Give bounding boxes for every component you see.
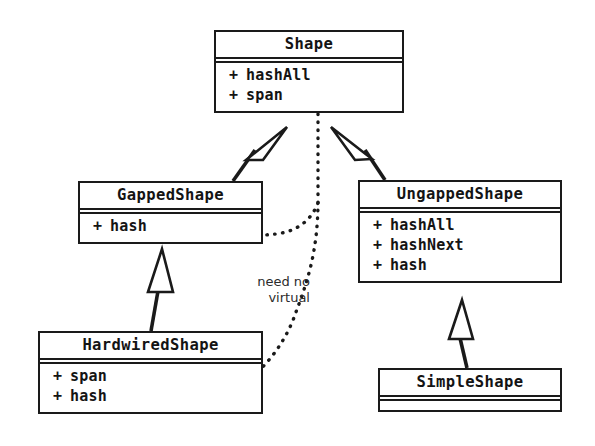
member-row: +hash [53,387,255,407]
class-name-gappedshape: GappedShape [80,183,261,208]
uml-class-simpleshape[interactable]: SimpleShape [378,368,562,412]
member-name: hashNext [390,236,464,254]
generalization-hardwiredshape-to-gappedshape [148,249,173,331]
member-name: hash [110,217,147,235]
visibility-marker: + [229,66,246,86]
hollow-triangle-arrowhead-icon [246,127,287,160]
uml-class-hardwiredshape[interactable]: HardwiredShape +span +hash [38,331,263,414]
member-row: +hashNext [373,236,554,256]
member-row: +span [229,86,396,106]
members-compartment: +hash [80,214,261,242]
visibility-marker: + [373,236,390,256]
generalization-gappedshape-to-shape [233,127,287,181]
visibility-marker: + [373,216,390,236]
member-name: hash [390,256,427,274]
generalization-line [151,291,158,331]
member-name: span [70,367,107,385]
class-name-shape: Shape [216,32,402,57]
hollow-triangle-arrowhead-icon [449,300,473,339]
annotation-need-no-virtual: need no virtual [232,274,310,306]
member-row: +hash [373,256,554,276]
members-compartment: +span +hash [40,364,261,412]
uml-class-ungappedshape[interactable]: UngappedShape +hashAll +hashNext +hash [358,180,562,283]
generalization-ungappedshape-to-shape [331,127,385,180]
visibility-marker: + [93,217,110,237]
annotation-line-1: need no [232,274,310,290]
class-name-hardwiredshape: HardwiredShape [40,333,261,358]
member-row: +hashAll [373,216,554,236]
class-name-simpleshape: SimpleShape [380,370,560,395]
hollow-triangle-arrowhead-icon [331,127,372,160]
visibility-marker: + [53,387,70,407]
generalization-line [460,338,467,368]
uml-class-gappedshape[interactable]: GappedShape +hash [78,181,263,244]
member-row: +hashAll [229,66,396,86]
visibility-marker: + [229,86,246,106]
members-compartment: +hashAll +span [216,63,402,111]
member-name: hash [70,387,107,405]
uml-class-shape[interactable]: Shape +hashAll +span [214,30,404,113]
uml-class-diagram: Shape +hashAll +span GappedShape +hash U… [0,0,595,446]
generalization-simpleshape-to-ungappedshape [449,300,473,368]
member-name: hashAll [246,66,311,84]
member-row: +span [53,367,255,387]
members-compartment-empty [380,401,560,410]
member-row: +hash [93,217,255,237]
visibility-marker: + [373,256,390,276]
member-name: hashAll [390,216,455,234]
hollow-triangle-arrowhead-icon [148,249,173,292]
class-name-ungappedshape: UngappedShape [360,182,560,207]
member-name: span [246,86,283,104]
visibility-marker: + [53,367,70,387]
annotation-line-2: virtual [232,290,310,306]
members-compartment: +hashAll +hashNext +hash [360,213,560,280]
